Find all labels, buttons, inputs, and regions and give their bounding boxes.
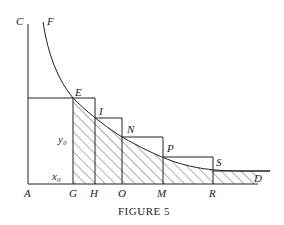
label-G: G: [69, 187, 77, 199]
label-P: P: [166, 142, 174, 154]
label-y0: y₀: [57, 133, 67, 145]
figure-caption: FIGURE 5: [118, 205, 170, 217]
label-S: S: [216, 156, 222, 168]
label-R: R: [208, 187, 216, 199]
label-A: A: [23, 187, 31, 199]
label-x0: x₀: [51, 170, 61, 182]
label-E: E: [74, 86, 82, 98]
label-F: F: [46, 15, 54, 27]
label-M: M: [156, 187, 167, 199]
label-O: O: [118, 187, 126, 199]
label-H: H: [89, 187, 99, 199]
label-C: C: [16, 15, 24, 27]
label-D: D: [253, 172, 262, 184]
label-I: I: [98, 105, 104, 117]
label-N: N: [126, 123, 135, 135]
hyperbola-area-diagram: C F E I N P S D y₀ x₀ A G H O M R FIGURE…: [0, 0, 284, 225]
